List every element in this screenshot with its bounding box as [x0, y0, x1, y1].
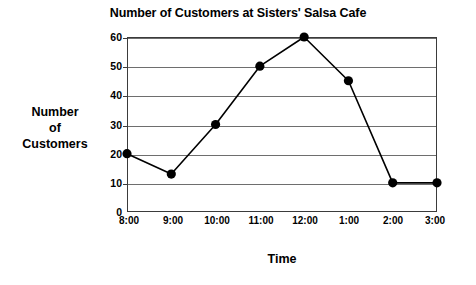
gridline-10: [128, 184, 436, 185]
y-axis-title-line-3: Customers: [12, 136, 98, 152]
y-tick-label-60: 60: [110, 32, 122, 43]
x-tick-label-3-00: 3:00: [425, 216, 445, 226]
y-tick-mark-50: [123, 67, 128, 68]
x-tick-label-12-00: 12:00: [292, 216, 318, 226]
y-tick-mark-60: [123, 38, 128, 39]
chart-title: Number of Customers at Sisters' Salsa Ca…: [0, 6, 476, 20]
gridline-20: [128, 155, 436, 156]
x-tick-label-9-00: 9:00: [163, 216, 183, 226]
y-axis-title-line-2: of: [12, 120, 98, 136]
y-tick-mark-30: [123, 126, 128, 127]
x-tick-label-10-00: 10:00: [204, 216, 230, 226]
x-tick-label-8-00: 8:00: [119, 216, 139, 226]
y-tick-label-20: 20: [110, 149, 122, 160]
x-axis-title: Time: [127, 252, 437, 266]
y-tick-mark-10: [123, 184, 128, 185]
line-chart-figure: Number of Customers at Sisters' Salsa Ca…: [0, 0, 476, 285]
y-tick-label-40: 40: [110, 90, 122, 101]
gridline-50: [128, 67, 436, 68]
y-axis-title-line-1: Number: [12, 104, 98, 120]
x-axis-tick-labels: 8:00 9:00 10:00 11:00 12:00 1:00 2:00 3:…: [0, 216, 476, 232]
y-tick-label-30: 30: [110, 120, 122, 131]
y-tick-mark-40: [123, 96, 128, 97]
y-tick-label-10: 10: [110, 178, 122, 189]
gridline-30: [128, 126, 436, 127]
y-axis-title: Number of Customers: [12, 104, 98, 152]
y-tick-label-50: 50: [110, 61, 122, 72]
y-axis-tick-labels: 60 50 40 30 20 10 0: [95, 0, 122, 285]
plot-area: [127, 37, 437, 212]
gridline-40: [128, 96, 436, 97]
gridline-60: [128, 38, 436, 39]
x-tick-label-11-00: 11:00: [248, 216, 273, 226]
y-tick-mark-20: [123, 155, 128, 156]
x-tick-label-1-00: 1:00: [339, 216, 359, 226]
x-tick-label-2-00: 2:00: [383, 216, 403, 226]
